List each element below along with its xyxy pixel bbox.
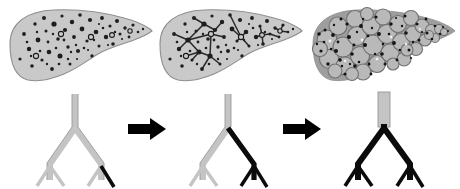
liver-development-figure [0,0,460,189]
tree-gray-trunk-stage-3 [378,92,390,127]
trunk-gray-segment [378,92,390,127]
figure-root [0,0,460,189]
